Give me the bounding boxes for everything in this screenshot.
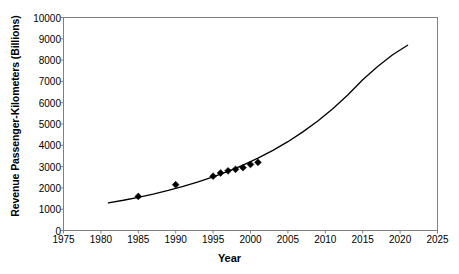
data-point-marker <box>225 167 232 174</box>
data-point-marker <box>240 164 247 171</box>
plot-area <box>0 0 459 274</box>
data-point-marker <box>135 193 142 200</box>
data-point-marker <box>172 181 179 188</box>
chart-container: Revenue Passenger-Kilometers (Billions) … <box>0 0 459 274</box>
plot-frame <box>64 18 438 231</box>
data-point-marker <box>255 159 262 166</box>
trend-path <box>108 45 407 203</box>
frame-rect <box>64 18 438 231</box>
data-point-marker <box>210 173 217 180</box>
trend-line <box>108 45 407 203</box>
